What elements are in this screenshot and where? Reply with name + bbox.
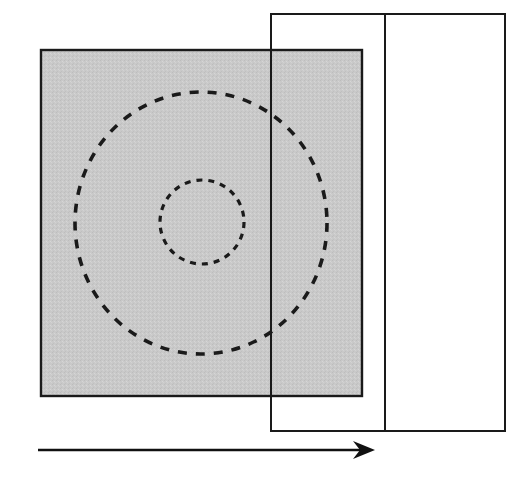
figure-canvas — [0, 0, 530, 486]
shaded-rectangle — [41, 50, 362, 396]
figure-diagram — [0, 0, 530, 486]
plain-rectangle-right — [385, 14, 505, 431]
direction-arrow — [38, 441, 375, 459]
